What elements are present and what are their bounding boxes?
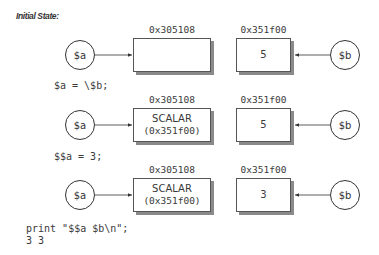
code-line-deref-assign: $$a = 3; bbox=[54, 151, 102, 163]
box2-address-row1: 0x351f00 bbox=[236, 24, 291, 35]
variable-b-label: $b bbox=[339, 50, 352, 61]
box1-line1: SCALAR bbox=[152, 183, 192, 195]
code-line-assign-ref: $a = \$b; bbox=[54, 80, 108, 92]
variable-a-circle-row2: $a bbox=[65, 110, 95, 140]
variable-a-label: $a bbox=[74, 50, 87, 61]
code-line-print: print "$$a $b\n"; bbox=[26, 223, 128, 235]
box2-value: 3 bbox=[260, 189, 266, 201]
box2-address-row2: 0x351f00 bbox=[236, 94, 291, 105]
memory-box2-row1: 5 bbox=[236, 38, 291, 72]
variable-b-label: $b bbox=[339, 120, 352, 131]
variable-a-label: $a bbox=[74, 120, 87, 131]
box2-value: 5 bbox=[260, 119, 266, 131]
memory-box2-row2: 5 bbox=[236, 108, 291, 142]
box1-address-row2: 0x305108 bbox=[133, 94, 211, 105]
box1-line1: SCALAR bbox=[152, 113, 192, 125]
memory-box1-row3: SCALAR (0x351f00) bbox=[133, 178, 211, 212]
variable-a-circle-row1: $a bbox=[65, 40, 95, 70]
box1-address-row1: 0x305108 bbox=[133, 24, 211, 35]
variable-b-circle-row2: $b bbox=[330, 110, 360, 140]
diagram-canvas: Initial State: $a 0x305108 0x351f00 5 $b… bbox=[0, 0, 379, 255]
box1-line2: (0x351f00) bbox=[143, 125, 200, 137]
variable-b-label: $b bbox=[339, 190, 352, 201]
memory-box1-row2: SCALAR (0x351f00) bbox=[133, 108, 211, 142]
variable-b-circle-row1: $b bbox=[330, 40, 360, 70]
box2-value: 5 bbox=[260, 49, 266, 61]
program-output: 3 3 bbox=[26, 235, 44, 247]
memory-box1-row1 bbox=[133, 38, 211, 72]
memory-box2-row3: 3 bbox=[236, 178, 291, 212]
variable-b-circle-row3: $b bbox=[330, 180, 360, 210]
box1-address-row3: 0x305108 bbox=[133, 164, 211, 175]
variable-a-label: $a bbox=[74, 190, 87, 201]
box2-address-row3: 0x351f00 bbox=[236, 164, 291, 175]
box1-line2: (0x351f00) bbox=[143, 195, 200, 207]
variable-a-circle-row3: $a bbox=[65, 180, 95, 210]
